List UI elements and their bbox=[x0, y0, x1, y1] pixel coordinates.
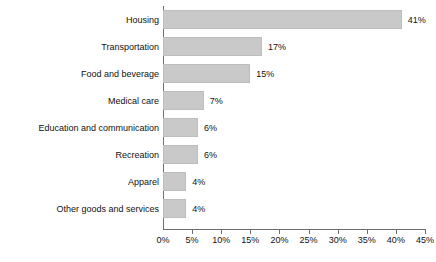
category-label: Education and communication bbox=[163, 118, 164, 137]
category-label-text: Education and communication bbox=[38, 123, 159, 132]
bar bbox=[163, 172, 186, 191]
x-axis-tick bbox=[396, 230, 397, 234]
x-axis-tick-label: 5% bbox=[186, 236, 199, 245]
bar-row: 15% bbox=[163, 64, 425, 83]
category-label-text: Recreation bbox=[115, 150, 159, 159]
category-label: Other goods and services bbox=[163, 199, 164, 218]
bar-row: 6% bbox=[163, 118, 425, 137]
x-axis-line bbox=[163, 229, 426, 230]
x-axis-tick-label: 20% bbox=[270, 236, 288, 245]
bar-row: 17% bbox=[163, 37, 425, 56]
bar-value-label: 4% bbox=[192, 177, 205, 186]
x-axis-tick bbox=[338, 230, 339, 234]
bar-value-label: 6% bbox=[204, 150, 217, 159]
x-axis-tick bbox=[192, 230, 193, 234]
x-axis-tick-label: 25% bbox=[300, 236, 318, 245]
x-axis-tick-label: 40% bbox=[387, 236, 405, 245]
plot-area: 41%Housing17%Transportation15%Food and b… bbox=[163, 6, 425, 228]
category-label-text: Apparel bbox=[128, 177, 159, 186]
x-axis-tick-label: 0% bbox=[156, 236, 169, 245]
x-axis-tick bbox=[367, 230, 368, 234]
bar-value-label: 17% bbox=[268, 42, 286, 51]
x-axis-tick bbox=[279, 230, 280, 234]
x-axis-tick bbox=[221, 230, 222, 234]
bar bbox=[163, 118, 198, 137]
bar-row: 7% bbox=[163, 91, 425, 110]
bar bbox=[163, 37, 262, 56]
x-axis-tick bbox=[425, 230, 426, 234]
x-axis-tick bbox=[250, 230, 251, 234]
bar-row: 4% bbox=[163, 199, 425, 218]
bar-value-label: 41% bbox=[408, 15, 426, 24]
x-axis-tick-label: 30% bbox=[329, 236, 347, 245]
category-label: Transportation bbox=[163, 37, 164, 56]
bar-row: 4% bbox=[163, 172, 425, 191]
category-label-text: Medical care bbox=[108, 96, 159, 105]
category-label-text: Other goods and services bbox=[56, 204, 159, 213]
x-axis-tick-label: 35% bbox=[358, 236, 376, 245]
bar bbox=[163, 199, 186, 218]
bar-value-label: 7% bbox=[210, 96, 223, 105]
bar-row: 41% bbox=[163, 10, 425, 29]
bar-value-label: 6% bbox=[204, 123, 217, 132]
bar-row: 6% bbox=[163, 145, 425, 164]
bar bbox=[163, 91, 204, 110]
x-axis-tick-label: 15% bbox=[241, 236, 259, 245]
bar-chart: 41%Housing17%Transportation15%Food and b… bbox=[0, 0, 436, 262]
category-label: Recreation bbox=[163, 145, 164, 164]
bar-value-label: 15% bbox=[256, 69, 274, 78]
category-label: Housing bbox=[163, 10, 164, 29]
bar bbox=[163, 64, 250, 83]
x-axis-tick bbox=[309, 230, 310, 234]
x-axis-tick-label: 10% bbox=[212, 236, 230, 245]
category-label-text: Housing bbox=[126, 15, 159, 24]
x-axis-tick-label: 45% bbox=[416, 236, 434, 245]
bar bbox=[163, 10, 402, 29]
category-label-text: Food and beverage bbox=[81, 69, 159, 78]
category-label: Food and beverage bbox=[163, 64, 164, 83]
category-label: Medical care bbox=[163, 91, 164, 110]
category-label-text: Transportation bbox=[101, 42, 159, 51]
category-label: Apparel bbox=[163, 172, 164, 191]
bar-value-label: 4% bbox=[192, 204, 205, 213]
bar bbox=[163, 145, 198, 164]
